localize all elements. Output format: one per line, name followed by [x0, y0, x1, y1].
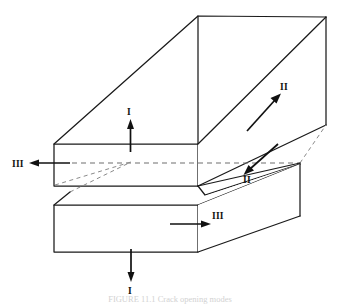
lower-slab-front-face: [54, 205, 198, 252]
mode-i-bottom-arrow: [128, 249, 135, 282]
mode-ii-lower-label: II: [243, 175, 251, 185]
mode-i-top-label: I: [127, 107, 131, 117]
figure-caption: FIGURE 11.1 Crack opening modes: [0, 294, 340, 304]
mode-iii-right-label: III: [212, 211, 224, 221]
mode-iii-left-label: III: [12, 159, 24, 169]
lower-slab-top-left-edge: [54, 192, 70, 205]
mode-ii-upper-label: II: [280, 82, 288, 92]
